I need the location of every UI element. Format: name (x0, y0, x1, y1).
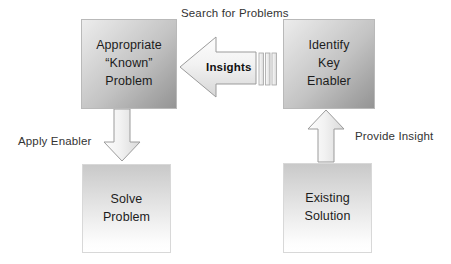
box-identify-key-enabler[interactable]: Identify Key Enabler (283, 19, 375, 109)
box-label: Solve Problem (103, 191, 150, 227)
apply-enabler-arrow (104, 109, 140, 161)
box-appropriate-known-problem[interactable]: Appropriate “Known” Problem (81, 19, 177, 109)
box-existing-solution[interactable]: Existing Solution (283, 163, 372, 253)
label-search-for-problems: Search for Problems (181, 7, 289, 19)
box-solve-problem[interactable]: Solve Problem (82, 164, 171, 253)
label-provide-insight: Provide Insight (355, 130, 433, 142)
box-label: Identify Key Enabler (307, 37, 351, 90)
label-insights: Insights (206, 61, 252, 73)
label-apply-enabler: Apply Enabler (18, 135, 92, 147)
provide-insight-arrow (308, 110, 344, 162)
insights-arrow-tail-bars (259, 53, 277, 85)
diagram-canvas: Appropriate “Known” Problem Identify Key… (0, 0, 451, 264)
box-label: Existing Solution (305, 190, 351, 226)
box-label: Appropriate “Known” Problem (96, 37, 162, 90)
